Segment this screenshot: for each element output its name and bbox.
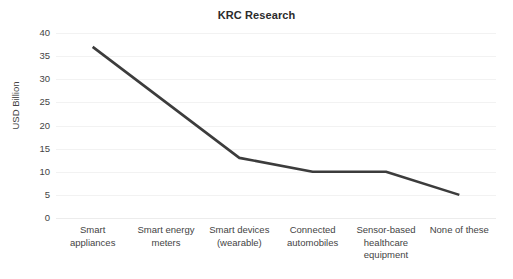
series-polyline bbox=[93, 47, 460, 195]
y-tick-label: 25 bbox=[20, 97, 50, 107]
x-tick-label: Smart energymeters bbox=[129, 224, 202, 276]
x-tick-label: Sensor-basedhealthcareequipment bbox=[349, 224, 422, 276]
x-tick-label: Smartappliances bbox=[56, 224, 129, 276]
data-series-line bbox=[56, 33, 496, 218]
x-tick-label: Smart devices(wearable) bbox=[203, 224, 276, 276]
y-tick-label: 5 bbox=[20, 190, 50, 200]
y-tick-label: 40 bbox=[20, 28, 50, 38]
y-tick-label: 0 bbox=[20, 213, 50, 223]
y-tick-label: 30 bbox=[20, 74, 50, 84]
y-tick-label: 10 bbox=[20, 167, 50, 177]
x-axis-tick-labels: SmartappliancesSmart energymetersSmart d… bbox=[56, 224, 496, 276]
x-tick-label: None of these bbox=[423, 224, 496, 276]
gridline bbox=[56, 218, 496, 219]
y-tick-label: 20 bbox=[20, 121, 50, 131]
plot-area bbox=[56, 33, 496, 218]
y-tick-label: 35 bbox=[20, 51, 50, 61]
chart-title: KRC Research bbox=[0, 9, 513, 21]
y-tick-label: 15 bbox=[20, 144, 50, 154]
x-tick-label: Connectedautomobiles bbox=[276, 224, 349, 276]
y-axis-title: USD Billion bbox=[10, 66, 21, 146]
chart-container: KRC Research USD Billion 051015202530354… bbox=[0, 0, 513, 279]
